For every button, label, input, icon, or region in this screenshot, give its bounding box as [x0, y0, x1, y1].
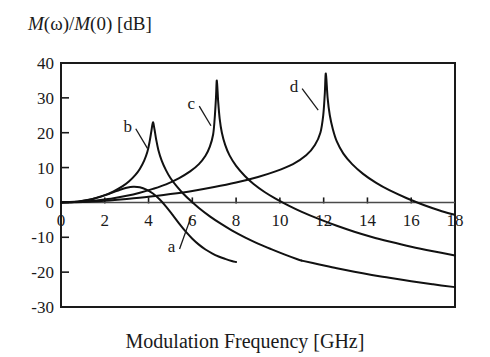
y-axis-label-omega: (ω)/: [44, 13, 75, 35]
x-tick-label: 14: [359, 211, 377, 230]
leader-line-b: [136, 129, 148, 149]
y-tick-label: 30: [37, 89, 54, 108]
y-tick-label: 40: [37, 54, 54, 73]
curve-d: [61, 73, 455, 215]
y-axis-label-zero: (0) [dB]: [90, 13, 152, 35]
leader-line-a: [180, 216, 192, 249]
y-tick-label: -10: [31, 228, 54, 247]
y-axis-label-m2: M: [73, 13, 91, 34]
y-axis-label: M(ω)/M(0) [dB]: [27, 13, 152, 35]
x-tick-label: 2: [101, 211, 110, 230]
leader-line-d: [302, 89, 318, 110]
y-tick-label: 20: [37, 124, 54, 143]
x-axis-label: Modulation Frequency [GHz]: [126, 330, 365, 353]
x-tick-label: 16: [403, 211, 420, 230]
curve-label-a: a: [168, 237, 176, 256]
y-tick-label: -30: [31, 298, 54, 317]
y-tick-label: -20: [31, 263, 54, 282]
curve-lower-tail-1: [302, 261, 455, 287]
y-axis-label-m1: M: [27, 13, 45, 34]
y-axis-ticks: -30-20-10010203040: [31, 54, 69, 317]
curve-b: [61, 122, 302, 260]
curve-c: [61, 80, 455, 255]
chart-figure: M(ω)/M(0) [dB] -30-20-10010203040 024681…: [0, 0, 490, 357]
x-tick-label: 10: [271, 211, 288, 230]
leader-line-c: [199, 106, 211, 126]
curve-label-c: c: [187, 94, 195, 113]
x-tick-label: 4: [144, 211, 153, 230]
curve-label-b: b: [124, 117, 133, 136]
x-tick-label: 8: [232, 211, 241, 230]
y-tick-label: 10: [37, 159, 54, 178]
y-tick-label: 0: [46, 193, 55, 212]
modulation-response-chart: M(ω)/M(0) [dB] -30-20-10010203040 024681…: [0, 0, 490, 357]
plot-frame: [61, 63, 455, 307]
x-tick-label: 0: [57, 211, 66, 230]
curve-label-d: d: [290, 77, 299, 96]
curves: [61, 73, 455, 287]
